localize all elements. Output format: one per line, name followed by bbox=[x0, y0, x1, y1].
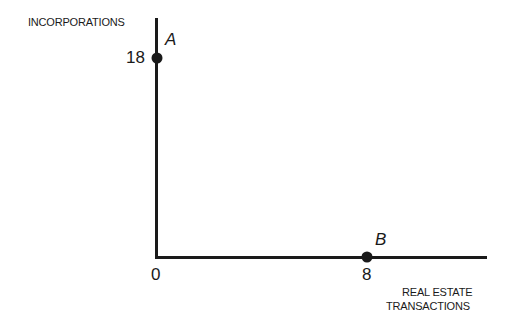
axes-diagram bbox=[0, 0, 512, 330]
point-a-marker bbox=[152, 53, 163, 64]
origin-label: 0 bbox=[151, 265, 160, 285]
point-b-marker bbox=[362, 252, 373, 263]
y-tick-18: 18 bbox=[126, 48, 145, 68]
x-axis-label-line1: REAL ESTATE bbox=[402, 286, 472, 298]
x-tick-8: 8 bbox=[362, 265, 371, 285]
x-axis-label-line2: TRANSACTIONS bbox=[386, 300, 470, 312]
y-axis-label: INCORPORATIONS bbox=[28, 16, 125, 28]
point-b-label: B bbox=[375, 230, 386, 250]
point-a-label: A bbox=[165, 30, 176, 50]
